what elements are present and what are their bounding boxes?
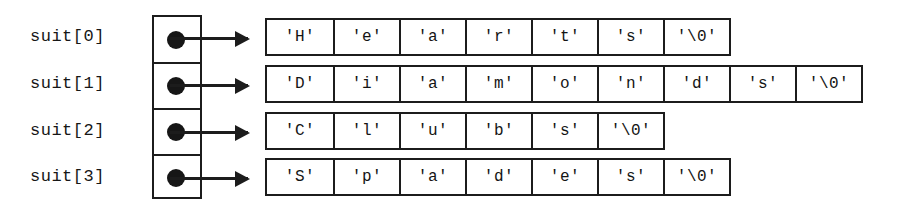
- array-index-label-0: suit[0]: [30, 27, 148, 46]
- char-cell: 'e': [333, 20, 399, 54]
- char-cell: 'a': [399, 160, 465, 194]
- char-cell: 'i': [333, 67, 399, 101]
- char-cell: 's': [597, 160, 663, 194]
- char-cell: 'l': [333, 114, 399, 148]
- char-cell: 'd': [465, 160, 531, 194]
- char-cell: 'e': [531, 160, 597, 194]
- char-cell: '\0': [795, 67, 861, 101]
- string-row: 'S' 'p' 'a' 'd' 'e' 's' '\0': [265, 158, 731, 196]
- char-cell: 'S': [267, 160, 333, 194]
- pointer-array-box: [152, 15, 202, 199]
- array-index-label-1: suit[1]: [30, 74, 148, 93]
- char-cell: 'a': [399, 67, 465, 101]
- char-cell: '\0': [597, 114, 663, 148]
- char-cell: 'o': [531, 67, 597, 101]
- char-cell: 'b': [465, 114, 531, 148]
- array-index-label-3: suit[3]: [30, 167, 148, 186]
- char-cell: 's': [729, 67, 795, 101]
- char-cell: 'n': [597, 67, 663, 101]
- pointer-arrow-icon-0: [170, 37, 248, 40]
- string-row: 'C' 'l' 'u' 'b' 's' '\0': [265, 112, 665, 150]
- char-cell: 's': [531, 114, 597, 148]
- char-cell: 's': [597, 20, 663, 54]
- pointer-arrow-icon-2: [170, 131, 248, 134]
- char-cell: 'u': [399, 114, 465, 148]
- pointer-cell-0: [154, 17, 200, 63]
- char-cell: 'C': [267, 114, 333, 148]
- char-cell: 'H': [267, 20, 333, 54]
- char-cell: 'D': [267, 67, 333, 101]
- string-row: 'D' 'i' 'a' 'm' 'o' 'n' 'd' 's' '\0': [265, 65, 863, 103]
- char-cell: '\0': [663, 20, 729, 54]
- pointer-arrow-icon-3: [170, 177, 248, 180]
- pointer-array-diagram: suit[0] suit[1] suit[2] suit[3] 'H' 'e' …: [0, 0, 897, 220]
- char-cell: 't': [531, 20, 597, 54]
- pointer-dot-icon: [167, 31, 185, 49]
- char-cell: 'p': [333, 160, 399, 194]
- char-cell: 'm': [465, 67, 531, 101]
- char-cell: '\0': [663, 160, 729, 194]
- char-cell: 'a': [399, 20, 465, 54]
- char-cell: 'd': [663, 67, 729, 101]
- char-cell: 'r': [465, 20, 531, 54]
- array-index-label-2: suit[2]: [30, 121, 148, 140]
- pointer-arrow-icon-1: [170, 84, 248, 87]
- string-row: 'H' 'e' 'a' 'r' 't' 's' '\0': [265, 18, 731, 56]
